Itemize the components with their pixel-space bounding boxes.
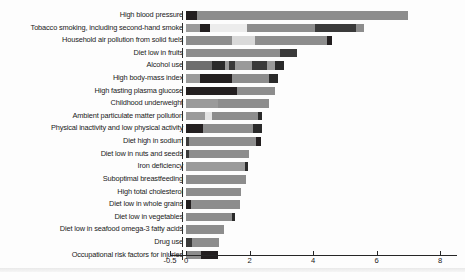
stacked-bar [186, 175, 246, 184]
bar-segment [186, 175, 246, 184]
category-label: High total cholesterol [117, 186, 183, 199]
bar-segment [186, 87, 237, 96]
stacked-bar [186, 99, 269, 108]
bar-segment [186, 36, 232, 45]
x-tick-label: -0.5 [163, 256, 176, 265]
stacked-bar [186, 112, 262, 121]
category-label: Suboptimal breastfeeding [103, 173, 183, 186]
chart-row: Physical inactivity and low physical act… [0, 122, 465, 135]
stacked-bar [186, 11, 408, 20]
x-tick-label: 8 [438, 256, 442, 265]
bar-segment [186, 49, 280, 58]
stacked-bar [186, 137, 261, 146]
bar-segment [212, 61, 225, 70]
chart-row: Iron deficiency [0, 160, 465, 173]
category-label: Household air pollution from solid fuels [62, 34, 183, 47]
stacked-bar [186, 61, 284, 70]
bar-segment [186, 213, 232, 222]
category-label: Alcohol use [146, 59, 183, 72]
stacked-bar [186, 225, 224, 234]
bar-segment [315, 24, 356, 33]
bar-segment [186, 74, 200, 83]
bar-segment [269, 74, 279, 83]
bar-segment [197, 11, 408, 20]
bar-segment [327, 36, 332, 45]
x-tick-label: 6 [374, 256, 378, 265]
category-label: Diet high in sodium [123, 135, 183, 148]
bar-segment [186, 61, 212, 70]
chart-row: Suboptimal breastfeeding [0, 173, 465, 186]
chart-row: High blood pressure [0, 9, 465, 22]
bar-segment [232, 36, 255, 45]
page-edge-shadow [0, 268, 465, 272]
chart-row: High total cholesterol [0, 186, 465, 199]
chart-row: Household air pollution from solid fuels [0, 34, 465, 47]
stacked-bar [186, 150, 249, 159]
bar-segment [232, 74, 269, 83]
bar-segment [189, 137, 256, 146]
stacked-bar [186, 213, 235, 222]
bar-segment [189, 150, 250, 159]
category-label: Iron deficiency [138, 160, 183, 173]
bar-segment [255, 36, 327, 45]
category-label: Diet low in fruits [134, 47, 183, 60]
stacked-bar [186, 87, 275, 96]
category-label: High body-mass index [113, 72, 183, 85]
category-label: High fasting plasma glucose [95, 85, 183, 98]
chart-row: Drug use [0, 236, 465, 249]
category-label: Ambient particulate matter pollution [73, 110, 183, 123]
stacked-bar [186, 124, 262, 133]
bar-segment [253, 124, 263, 133]
stacked-bar [186, 49, 297, 58]
category-label: Physical inactivity and low physical act… [51, 122, 183, 135]
chart-row: Diet low in vegetables [0, 211, 465, 224]
stacked-bar [186, 238, 219, 247]
bar-segment [191, 200, 240, 209]
bar-segment [186, 112, 205, 121]
bar-segment [186, 24, 200, 33]
bar-segment [252, 61, 266, 70]
category-label: Tobacco smoking, including second-hand s… [31, 22, 183, 35]
stacked-bar [186, 188, 241, 197]
bar-segment [237, 87, 275, 96]
category-label: Diet low in nuts and seeds [101, 148, 183, 161]
bar-segment [267, 61, 276, 70]
chart-row: High body-mass index [0, 72, 465, 85]
bar-segment [205, 112, 212, 121]
category-label: High blood pressure [120, 9, 183, 22]
chart-row: Tobacco smoking, including second-hand s… [0, 22, 465, 35]
bar-segment [258, 112, 262, 121]
stacked-bar [186, 36, 332, 45]
stacked-bar [186, 200, 240, 209]
bar-segment [200, 74, 232, 83]
stacked-bar [186, 162, 248, 171]
x-tick-label: 0 [184, 256, 188, 265]
category-label: Drug use [154, 236, 183, 249]
chart-row: Diet high in sodium [0, 135, 465, 148]
bar-segment [203, 124, 252, 133]
bar-segment [186, 162, 245, 171]
horizontal-stacked-bar-chart: High blood pressureTobacco smoking, incl… [0, 0, 465, 280]
bar-segment [212, 112, 258, 121]
chart-row: Diet low in seafood omega-3 fatty acids [0, 223, 465, 236]
stacked-bar [186, 24, 364, 33]
chart-row: Diet low in fruits [0, 47, 465, 60]
bar-segment [186, 124, 203, 133]
bar-segment [186, 225, 224, 234]
bar-segment [232, 213, 235, 222]
chart-row: Diet low in whole grains [0, 198, 465, 211]
bar-segment [200, 24, 210, 33]
bar-segment [186, 99, 218, 108]
bar-segment [186, 11, 197, 20]
bar-segment [245, 162, 248, 171]
bar-segment [280, 49, 297, 58]
chart-row: Diet low in nuts and seeds [0, 148, 465, 161]
category-label: Diet low in whole grains [109, 198, 183, 211]
category-label: Diet low in vegetables [114, 211, 183, 224]
chart-row: Childhood underweight [0, 97, 465, 110]
plot-area: High blood pressureTobacco smoking, incl… [0, 0, 465, 262]
bar-rows: High blood pressureTobacco smoking, incl… [0, 9, 465, 261]
chart-row: Alcohol use [0, 59, 465, 72]
category-label: Childhood underweight [111, 97, 183, 110]
chart-row: Ambient particulate matter pollution [0, 110, 465, 123]
